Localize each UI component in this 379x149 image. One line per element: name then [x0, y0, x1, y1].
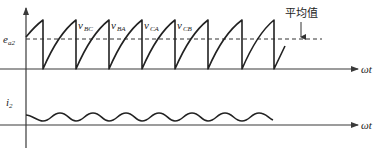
phase-label-vcb: vCB — [177, 19, 193, 33]
y-label-i2: i2 — [6, 96, 13, 110]
y-label-ea2: ea2 — [3, 33, 15, 47]
phase-label-vbc: vBC — [78, 19, 93, 33]
top-plot: ωt ea2 vBC vBA vCA vCB 平均值 — [0, 7, 373, 75]
average-value-label: 平均值 — [285, 7, 318, 20]
bottom-x-axis-label: ωt — [361, 119, 373, 131]
current-ripple-waveform — [26, 113, 273, 121]
phase-label-vca: vCA — [144, 19, 160, 33]
phase-label-vba: vBA — [111, 19, 126, 33]
top-x-axis-label: ωt — [361, 63, 373, 75]
bottom-plot: ωt i2 — [0, 96, 373, 131]
waveform-diagram: ωt ea2 vBC vBA vCA vCB 平均值 ωt i2 — [0, 0, 379, 149]
